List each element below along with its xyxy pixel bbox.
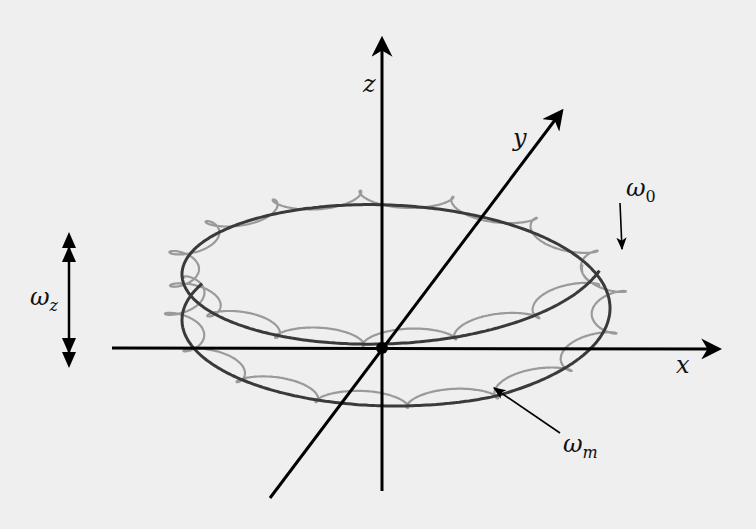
z-axis-label: z [362,70,376,98]
omega0-label: ω0 [626,174,656,206]
omega-z-oscillation-arrow [62,232,76,368]
y-axis [270,112,561,498]
origin-point [376,342,388,354]
omegam-label: ωm [563,430,598,462]
omegam-pointer-arrow [494,388,560,433]
magnetron-orbit-spiral [182,205,610,406]
x-axis [112,348,718,349]
x-axis-label: x [676,351,690,379]
omegaz-label: ωz [30,283,59,315]
y-axis-label: y [512,124,527,152]
omega0-pointer-arrow [620,203,622,249]
magnetron-motion-diagram: x y z ω0 ωm ωz [0,0,756,529]
